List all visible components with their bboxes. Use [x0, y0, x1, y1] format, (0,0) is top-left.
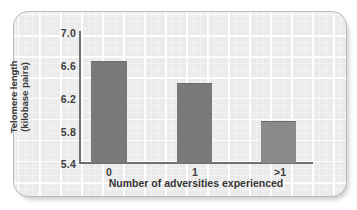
bar-series	[0, 0, 357, 163]
x-tick-label: >1	[274, 167, 286, 178]
x-tick-label: 1	[192, 167, 198, 178]
bar-category-0	[91, 61, 127, 163]
chart-figure: 7.0 6.6 6.2 5.8 5.4 Telomere length (kil…	[0, 0, 357, 210]
x-tick-label: 0	[106, 167, 112, 178]
x-axis-title: Number of adversities experienced	[79, 178, 313, 189]
bar-category-gt1	[261, 121, 296, 163]
bar-category-1	[177, 83, 212, 163]
